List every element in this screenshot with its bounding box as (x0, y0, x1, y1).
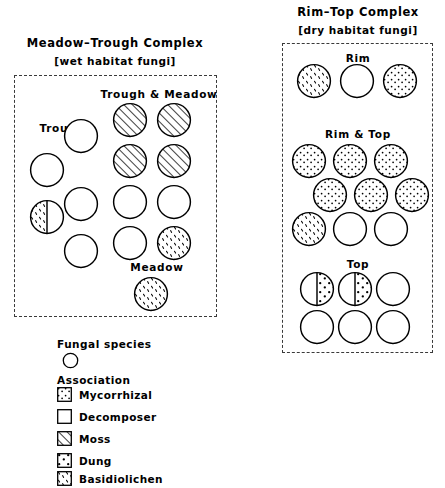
legend-item-mycorrhizal: Mycorrhizal (57, 387, 152, 402)
fungal-species-circle-rim-and-top-7 (292, 212, 326, 246)
group-title-rim-and-top: Rim & Top (292, 128, 424, 140)
dung-swatch-icon (57, 453, 72, 468)
fungal-species-circle-trough-5 (64, 234, 98, 268)
figure-canvas: Meadow–Trough Complex [wet habitat fungi… (0, 0, 445, 488)
fungal-species-circle-top-3 (376, 272, 410, 306)
legend-species-circle-icon (62, 352, 79, 373)
fungal-species-circle-trough-and-meadow-3 (113, 144, 147, 178)
fungal-species-circle-rim-and-top-4 (313, 178, 347, 212)
legend-item-dung: Dung (57, 453, 112, 468)
fungal-species-circle-trough-and-meadow-7 (113, 226, 147, 260)
legend-label-moss: Moss (79, 433, 111, 445)
fungal-species-circle-rim-and-top-8 (333, 212, 367, 246)
fungal-species-circle-rim-3 (383, 64, 417, 98)
fungal-species-circle-trough-and-meadow-2 (157, 103, 191, 137)
fungal-species-circle-trough-4 (30, 200, 64, 234)
complex-subtitle-meadow-trough: [wet habitat fungi] (14, 55, 216, 67)
moss-swatch-icon (57, 431, 72, 446)
fungal-species-circle-top-4 (300, 310, 334, 344)
fungal-species-circle-trough-and-meadow-1 (113, 103, 147, 137)
legend-heading-association: Association (57, 374, 131, 386)
decomposer-swatch-icon (57, 409, 72, 424)
fungal-species-circle-rim-and-top-3 (374, 144, 408, 178)
fungal-species-circle-trough-and-meadow-5 (113, 185, 147, 219)
fungal-species-circle-rim-2 (340, 64, 374, 98)
basidiolichen-swatch-icon (57, 471, 72, 486)
fungal-species-circle-rim-and-top-2 (333, 144, 367, 178)
fungal-species-circle-rim-and-top-6 (395, 178, 429, 212)
complex-title-rim-top: Rim–Top Complex (282, 5, 434, 19)
fungal-species-circle-top-5 (338, 310, 372, 344)
legend-item-moss: Moss (57, 431, 111, 446)
fungal-species-circle-trough-and-meadow-4 (157, 144, 191, 178)
fungal-species-circle-top-2 (338, 272, 372, 306)
mycorrhizal-swatch-icon (57, 387, 72, 402)
complex-title-meadow-trough: Meadow–Trough Complex (14, 36, 216, 50)
legend-item-basidiolichen: Basidiolichen (57, 471, 163, 486)
group-title-rim: Rim (292, 52, 424, 64)
complex-subtitle-rim-top: [dry habitat fungi] (282, 24, 434, 36)
fungal-species-circle-top-1 (300, 272, 334, 306)
fungal-species-circle-trough-and-meadow-6 (157, 185, 191, 219)
legend-label-mycorrhizal: Mycorrhizal (79, 389, 152, 401)
fungal-species-circle-rim-and-top-5 (354, 178, 388, 212)
group-title-top: Top (292, 258, 424, 270)
fungal-species-circle-trough-3 (64, 187, 98, 221)
fungal-species-circle-rim-and-top-9 (374, 212, 408, 246)
legend-item-decomposer: Decomposer (57, 409, 157, 424)
fungal-species-circle-trough-2 (64, 119, 98, 153)
fungal-species-circle-trough-and-meadow-8 (157, 226, 191, 260)
fungal-species-circle-rim-and-top-1 (292, 144, 326, 178)
group-title-trough-and-meadow: Trough & Meadow (100, 88, 218, 100)
fungal-species-circle-meadow-1 (134, 277, 168, 311)
group-title-meadow: Meadow (118, 261, 196, 273)
legend-heading-fungal-species: Fungal species (57, 338, 152, 350)
fungal-species-circle-rim-1 (297, 64, 331, 98)
fungal-species-circle-trough-1 (30, 153, 64, 187)
legend-label-decomposer: Decomposer (79, 411, 157, 423)
legend-label-basidiolichen: Basidiolichen (79, 473, 163, 485)
fungal-species-circle-top-6 (376, 310, 410, 344)
legend-label-dung: Dung (79, 455, 112, 467)
